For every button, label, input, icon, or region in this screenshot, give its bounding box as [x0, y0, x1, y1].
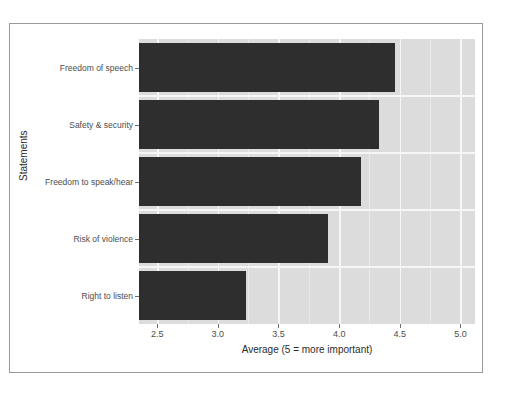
bar — [139, 43, 395, 92]
y-tick-label: Freedom to speak/hear — [45, 177, 133, 187]
x-tick-label: 2.5 — [151, 329, 164, 339]
x-tick-mark — [339, 324, 340, 328]
y-tick-label: Right to listen — [82, 291, 134, 301]
x-tick-mark — [218, 324, 219, 328]
gridline-major-y — [139, 152, 475, 154]
y-axis-title: Statements — [18, 130, 29, 181]
x-tick-label: 3.0 — [212, 329, 225, 339]
y-tick-mark — [135, 296, 139, 297]
x-axis-title: Average (5 = more important) — [139, 344, 475, 355]
y-tick-label: Safety & security — [69, 120, 133, 130]
gridline-major-y — [139, 95, 475, 97]
bar — [139, 214, 328, 263]
bar — [139, 100, 379, 149]
bar — [139, 271, 246, 320]
gridline-major-x — [400, 39, 402, 324]
x-tick-mark — [157, 324, 158, 328]
x-tick-label: 3.5 — [272, 329, 285, 339]
gridline-major-y — [139, 266, 475, 268]
x-tick-label: 5.0 — [454, 329, 467, 339]
y-tick-mark — [135, 125, 139, 126]
y-tick-label: Freedom of speech — [60, 63, 133, 73]
y-tick-label: Risk of violence — [73, 234, 133, 244]
y-tick-mark — [135, 182, 139, 183]
bar — [139, 157, 361, 206]
x-tick-label: 4.0 — [333, 329, 346, 339]
y-tick-mark — [135, 68, 139, 69]
x-tick-mark — [278, 324, 279, 328]
gridline-minor-x — [430, 39, 431, 324]
x-tick-mark — [400, 324, 401, 328]
bar-chart: 2.53.03.54.04.55.0 Average (5 = more imp… — [0, 0, 510, 395]
x-tick-mark — [460, 324, 461, 328]
gridline-major-y — [139, 209, 475, 211]
x-tick-label: 4.5 — [394, 329, 407, 339]
plot-panel — [139, 39, 475, 324]
gridline-major-x — [460, 39, 462, 324]
y-tick-mark — [135, 239, 139, 240]
